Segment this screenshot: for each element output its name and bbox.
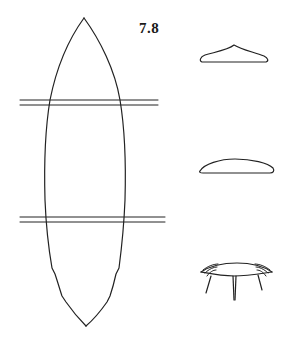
- cross-section-top: [200, 45, 267, 62]
- cross-section-bottom: [201, 263, 272, 300]
- technical-diagram: [0, 0, 298, 341]
- lower-section-line: [20, 217, 165, 222]
- upper-section-line: [20, 100, 158, 105]
- main-body-outline: [45, 18, 126, 326]
- cross-section-middle: [200, 159, 274, 173]
